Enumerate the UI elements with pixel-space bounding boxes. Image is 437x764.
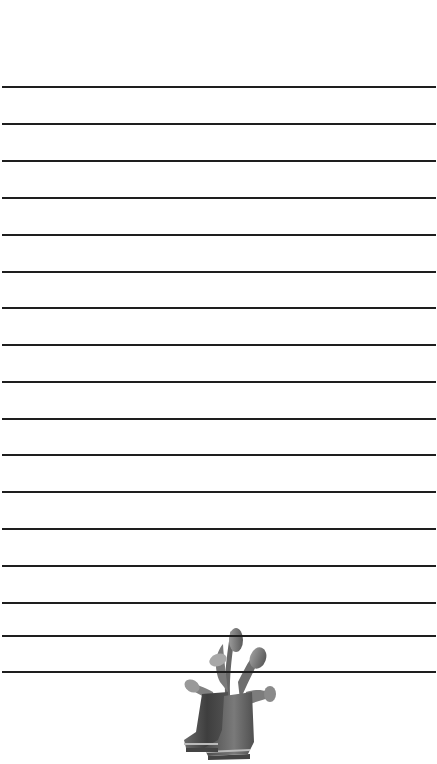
ruled-line (2, 271, 436, 273)
ruled-line (2, 197, 436, 199)
ruled-line (2, 565, 436, 567)
ruled-line (2, 635, 436, 637)
ruled-line (2, 160, 436, 162)
ruled-line (2, 418, 436, 420)
ruled-line (2, 86, 436, 88)
ruled-line (2, 344, 436, 346)
boots-with-tulips-image (178, 622, 278, 764)
ruled-line (2, 528, 436, 530)
ruled-line (2, 602, 436, 604)
ruled-line (2, 491, 436, 493)
ruled-line (2, 307, 436, 309)
notepaper-page (0, 0, 437, 764)
ruled-line (2, 454, 436, 456)
ruled-line (2, 123, 436, 125)
ruled-line (2, 234, 436, 236)
ruled-line (2, 381, 436, 383)
ruled-line (2, 671, 436, 673)
